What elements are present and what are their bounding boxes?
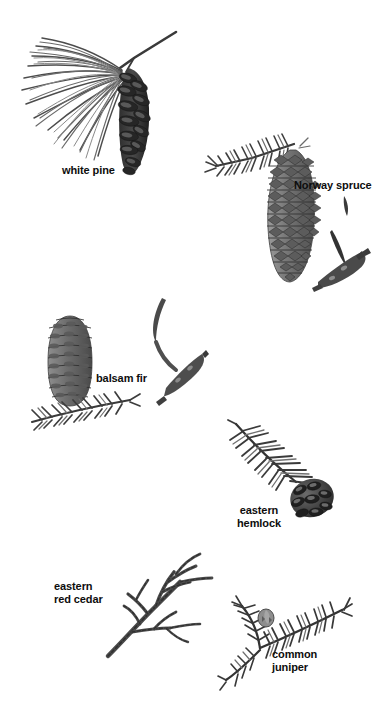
balsam-fir-illustration: [26, 296, 206, 431]
eastern-red-cedar-frond: [108, 554, 212, 656]
norway-spruce-illustration: [196, 132, 382, 292]
label-white-pine: white pine: [62, 164, 115, 177]
white-pine-illustration: [8, 28, 188, 178]
common-juniper-sprays: [218, 596, 352, 690]
norway-spruce-inset: [312, 196, 371, 292]
label-balsam-fir: balsam fir: [96, 372, 147, 385]
common-juniper-illustration: [218, 586, 378, 696]
label-eastern-hemlock-line1: eastern: [240, 504, 278, 516]
label-common-juniper-line1: common: [272, 648, 317, 660]
specimen-common-juniper: [218, 586, 378, 696]
label-common-juniper: common juniper: [272, 648, 317, 673]
common-juniper-berry: [258, 609, 274, 627]
white-pine-branch: [120, 32, 176, 72]
norway-spruce-cone: [267, 150, 321, 282]
label-common-juniper-line2: juniper: [272, 661, 308, 673]
balsam-fir-inset: [153, 298, 209, 406]
balsam-fir-cone: [48, 316, 92, 406]
label-eastern-hemlock-line2: hemlock: [237, 517, 281, 529]
specimen-eastern-red-cedar: [96, 548, 226, 663]
white-pine-needles: [22, 38, 125, 160]
balsam-fir-detached-needle: [153, 298, 166, 342]
eastern-red-cedar-illustration: [96, 548, 226, 663]
label-norway-spruce: Norway spruce: [294, 179, 372, 192]
label-eastern-red-cedar-line1: eastern: [54, 580, 92, 592]
norway-spruce-needle-on-twig: [330, 230, 346, 266]
label-eastern-red-cedar-line2: red cedar: [54, 593, 103, 605]
label-eastern-red-cedar: eastern red cedar: [54, 580, 103, 605]
specimen-norway-spruce: [196, 132, 382, 292]
norway-spruce-detached-needle: [344, 196, 348, 216]
eastern-hemlock-twig: [228, 420, 316, 490]
label-eastern-hemlock: eastern hemlock: [237, 504, 281, 529]
conifer-identification-plate: white pine: [0, 0, 387, 703]
specimen-white-pine: [8, 28, 188, 178]
balsam-fir-spray: [32, 392, 140, 430]
specimen-balsam-fir: [26, 296, 206, 431]
